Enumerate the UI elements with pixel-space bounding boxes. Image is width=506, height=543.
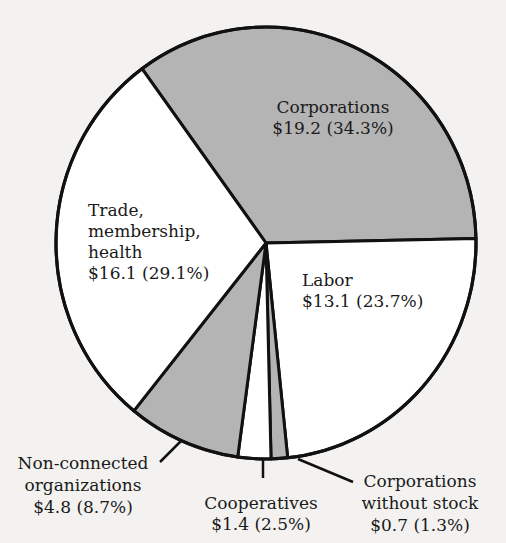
slice-label-corporations: Corporations$19.2 (34.3%) [272,97,393,138]
slice-label-line: organizations [24,475,141,495]
pie-slice-labor [266,238,476,457]
slice-label-line: health [88,242,142,262]
slice-label-line: Cooperatives [204,493,317,513]
slice-label-line: membership, [88,221,201,241]
leader-line-non-connected-organizations [160,440,182,462]
slice-label-line: $0.7 (1.3%) [370,515,470,535]
slice-label-line: Corporations [277,97,390,117]
slice-label-line: $1.4 (2.5%) [211,514,311,534]
slice-label-line: without stock [362,493,479,513]
slice-label-line: $16.1 (29.1%) [88,263,209,283]
slice-label-line: Labor [302,270,354,290]
slice-label-cooperatives: Cooperatives$1.4 (2.5%) [204,493,317,534]
pie-chart: Corporations$19.2 (34.3%)Labor$13.1 (23.… [0,0,506,543]
slice-label-corporations-without-stock: Corporationswithout stock$0.7 (1.3%) [362,471,479,535]
slice-label-line: Trade, [88,200,144,220]
leader-line-corporations-without-stock [298,459,353,482]
slice-label-line: $13.1 (23.7%) [302,291,423,311]
slice-label-non-connected-organizations: Non-connectedorganizations$4.8 (8.7%) [18,453,149,517]
slice-label-line: $4.8 (8.7%) [33,497,133,517]
slice-label-line: Corporations [364,471,477,491]
slice-label-line: Non-connected [18,453,149,473]
slice-label-line: $19.2 (34.3%) [272,118,393,138]
